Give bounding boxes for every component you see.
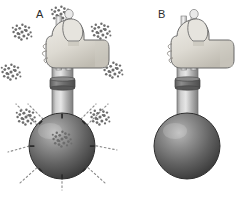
figure-root: A [0, 0, 249, 221]
neck-collar [175, 77, 200, 90]
flask-sphere [154, 113, 220, 179]
cluster-lower-right [90, 109, 111, 126]
cluster-upper-left [12, 24, 33, 41]
cluster-upper-right [91, 23, 112, 40]
panel-a: A [0, 0, 124, 221]
panel-b: B [125, 0, 249, 221]
hand [167, 19, 234, 68]
cluster-lower-left [16, 109, 37, 126]
neck-collar [50, 77, 75, 90]
cluster-left [1, 64, 22, 81]
apparatus-b [125, 0, 249, 221]
apparatus-a [0, 0, 124, 221]
